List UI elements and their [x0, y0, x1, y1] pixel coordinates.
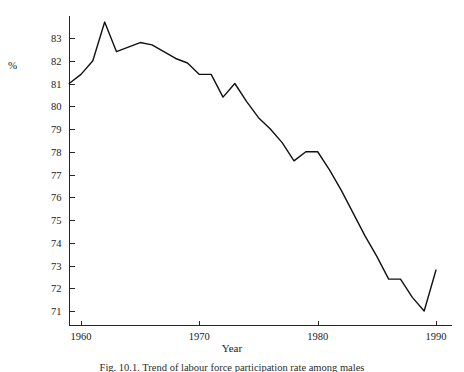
x-tick-label: 1960 [71, 331, 92, 342]
y-tick-label: 72 [51, 283, 62, 294]
x-axis: 1960197019801990 [70, 321, 453, 342]
y-tick-label: 75 [51, 215, 62, 226]
y-tick-label: 81 [51, 79, 62, 90]
y-tick-label: 76 [51, 192, 62, 203]
y-tick-label: 79 [51, 124, 62, 135]
y-axis-label: % [8, 59, 17, 71]
y-axis: 71727374757677787980818283 [51, 16, 75, 326]
x-tick-label: 1980 [307, 331, 328, 342]
y-tick-label: 82 [51, 56, 62, 67]
y-tick-label: 83 [51, 33, 62, 44]
x-axis-label: Year [0, 342, 464, 354]
y-tick-label: 77 [51, 170, 62, 181]
line-chart: 71727374757677787980818283 1960197019801… [0, 0, 464, 372]
y-tick-label: 73 [51, 261, 62, 272]
x-tick-group: 1960197019801990 [71, 321, 447, 342]
data-series-line [69, 22, 436, 311]
x-tick-label: 1970 [189, 331, 210, 342]
figure-caption: Fig. 10.1. Trend of labour force partici… [0, 361, 464, 372]
x-tick-label: 1990 [426, 331, 447, 342]
y-tick-label: 80 [51, 101, 62, 112]
figure-container: 71727374757677787980818283 1960197019801… [0, 0, 464, 372]
y-tick-label: 71 [51, 306, 62, 317]
y-tick-label: 74 [51, 238, 62, 249]
y-tick-label: 78 [51, 147, 62, 158]
y-tick-group: 71727374757677787980818283 [51, 33, 75, 317]
